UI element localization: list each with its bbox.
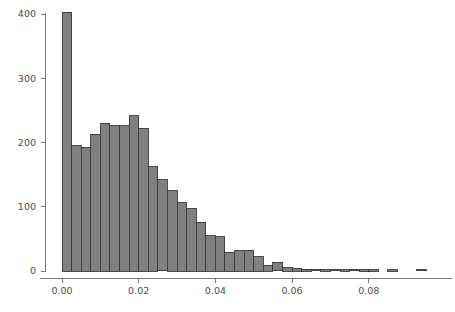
y-tick-label: 0 <box>30 265 36 276</box>
histogram-bar <box>244 250 254 271</box>
histogram-bar <box>330 270 340 271</box>
histogram-bar <box>62 12 72 271</box>
histogram-bar <box>311 270 321 271</box>
histogram-bar <box>350 270 360 271</box>
histogram-bar <box>388 270 398 271</box>
x-tick-labels: 0.000.020.040.060.08 <box>51 285 379 296</box>
histogram-bar <box>225 252 235 271</box>
y-tick-marks <box>41 14 46 271</box>
y-tick-label: 300 <box>18 73 36 84</box>
y-tick-label: 200 <box>18 137 36 148</box>
x-tick-marks <box>62 279 369 284</box>
histogram-bar <box>158 180 168 271</box>
histogram-bar <box>206 236 216 271</box>
histogram-bar <box>254 257 264 271</box>
histogram-bar <box>283 268 293 271</box>
x-tick-label: 0.02 <box>128 285 149 296</box>
histogram-bar <box>215 237 225 271</box>
histogram-bar <box>340 270 350 271</box>
histogram-bar <box>148 167 158 271</box>
histogram-bar <box>369 270 379 271</box>
histogram-bar <box>100 123 110 271</box>
chart-canvas: 0100200300400 0.000.020.040.060.08 <box>0 0 455 312</box>
bars-group <box>62 12 426 271</box>
histogram-chart: 0100200300400 0.000.020.040.060.08 <box>0 0 455 312</box>
histogram-bar <box>120 126 130 271</box>
histogram-bar <box>72 146 82 271</box>
y-axis <box>41 13 46 272</box>
x-tick-label: 0.00 <box>51 285 72 296</box>
histogram-bar <box>321 270 331 271</box>
histogram-bar <box>302 269 312 271</box>
y-tick-labels: 0100200300400 <box>18 8 36 276</box>
histogram-bar <box>187 209 197 271</box>
x-tick-label: 0.08 <box>358 285 379 296</box>
histogram-bar <box>292 268 302 271</box>
histogram-bar <box>110 126 120 271</box>
x-tick-label: 0.06 <box>282 285 303 296</box>
histogram-bar <box>263 265 273 271</box>
histogram-bar <box>235 250 245 271</box>
histogram-bar <box>139 128 149 271</box>
histogram-bar <box>273 262 283 271</box>
histogram-bar <box>167 191 177 271</box>
histogram-bar <box>81 147 91 271</box>
histogram-bar <box>196 222 206 271</box>
y-tick-label: 400 <box>18 8 36 19</box>
x-tick-label: 0.04 <box>205 285 226 296</box>
histogram-bar <box>129 116 139 271</box>
histogram-bar <box>177 203 187 271</box>
histogram-bar <box>417 270 427 271</box>
histogram-bar <box>91 134 101 271</box>
histogram-bar <box>359 270 369 271</box>
x-axis <box>40 279 452 284</box>
y-tick-label: 100 <box>18 201 36 212</box>
